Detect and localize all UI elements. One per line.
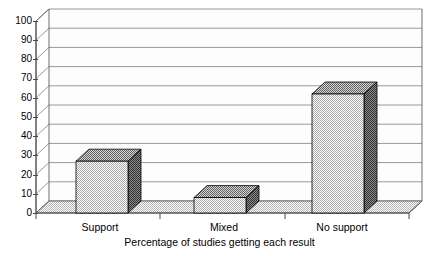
- y-tick-mark-60: [33, 98, 38, 99]
- y-tick-label-30: 30: [6, 150, 32, 160]
- bar-no-support[interactable]: [312, 82, 377, 213]
- bar-chart: 100 90 80 70 60 50 40 30 20 10 0 Support…: [0, 0, 439, 256]
- y-tick-mark-90: [33, 40, 38, 41]
- chart-svg: [0, 0, 439, 256]
- y-tick-mark-30: [33, 155, 38, 156]
- bar-mixed[interactable]: [194, 186, 259, 213]
- y-tick-label-50: 50: [6, 112, 32, 122]
- y-tick-label-0: 0: [6, 208, 32, 218]
- y-axis-labels: 100 90 80 70 60 50 40 30 20 10 0: [2, 0, 32, 256]
- y-tick-label-60: 60: [6, 93, 32, 103]
- bar-support[interactable]: [76, 149, 141, 213]
- y-tick-mark-10: [33, 194, 38, 195]
- y-tick-mark-0: [33, 213, 38, 214]
- x-axis-ticks: [36, 213, 409, 219]
- y-tick-mark-80: [33, 59, 38, 60]
- y-tick-label-10: 10: [6, 189, 32, 199]
- y-tick-label-80: 80: [6, 54, 32, 64]
- y-tick-mark-100: [33, 21, 38, 22]
- category-label-no-support: No support: [290, 221, 394, 233]
- x-axis-title: Percentage of studies getting each resul…: [0, 236, 439, 248]
- y-tick-mark-40: [33, 136, 38, 137]
- y-tick-mark-20: [33, 175, 38, 176]
- category-label-mixed: Mixed: [172, 221, 276, 233]
- y-tick-label-90: 90: [6, 35, 32, 45]
- y-tick-label-100: 100: [6, 16, 32, 26]
- plot-area: [0, 0, 439, 256]
- y-tick-label-20: 20: [6, 170, 32, 180]
- y-tick-label-40: 40: [6, 131, 32, 141]
- y-tick-label-70: 70: [6, 73, 32, 83]
- category-label-support: Support: [48, 221, 152, 233]
- y-tick-mark-70: [33, 79, 38, 80]
- y-tick-mark-50: [33, 117, 38, 118]
